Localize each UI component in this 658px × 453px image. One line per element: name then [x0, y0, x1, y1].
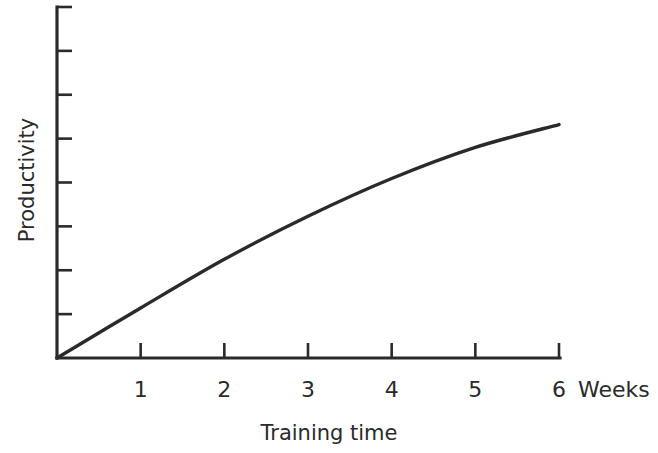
x-tick-label: 5: [468, 377, 482, 402]
x-tick-label: 6: [552, 377, 566, 402]
x-axis-title: Training time: [260, 421, 398, 445]
productivity-curve: [57, 125, 559, 358]
x-axis-tick-labels: 123456: [134, 377, 566, 402]
x-tick-label: 2: [217, 377, 231, 402]
x-tick-label: 4: [385, 377, 399, 402]
y-axis: [57, 7, 72, 358]
x-tick-label: 1: [134, 377, 148, 402]
x-axis-unit-label: Weeks: [578, 377, 650, 402]
productivity-line-chart: 123456 Weeks Training time Productivity: [0, 0, 658, 453]
y-axis-ticks: [57, 7, 72, 314]
x-tick-label: 3: [301, 377, 315, 402]
x-axis: 123456 Weeks: [57, 343, 650, 402]
x-axis-ticks: [141, 343, 559, 358]
y-axis-title: Productivity: [15, 118, 39, 243]
